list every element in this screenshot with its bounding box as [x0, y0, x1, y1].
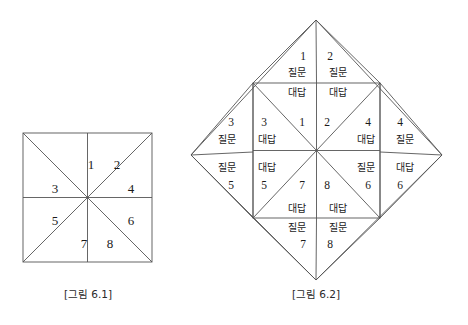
- fig2-word-label: 대답: [258, 163, 276, 173]
- fig2-word-label: 대답: [258, 135, 276, 145]
- fig2-word-label: 질문: [396, 135, 414, 145]
- fig1-sector-label: 4: [128, 182, 135, 195]
- fig2-number-label: 4: [365, 117, 371, 129]
- fig2-word-label: 질문: [329, 68, 347, 78]
- fig2-number-label: 4: [397, 117, 403, 129]
- fig2-number-label: 7: [300, 239, 306, 251]
- fig2-number-label: 6: [365, 180, 371, 192]
- fig1-sector-label: 8: [107, 237, 114, 250]
- fig2-word-label: 질문: [288, 68, 306, 78]
- fig2-number-label: 5: [228, 180, 234, 192]
- fig2-word-label: 대답: [329, 88, 347, 98]
- fig2-number-label: 3: [261, 117, 267, 129]
- fig1-sector-label: 2: [114, 158, 121, 171]
- fig2-word-label: 대답: [396, 163, 414, 173]
- fig2-word-label: 대답: [357, 135, 375, 145]
- fig2-number-label: 2: [324, 117, 330, 129]
- fig2-number-label: 2: [327, 51, 333, 63]
- fig2-number-label: 3: [228, 117, 234, 129]
- fig1-sector-label: 1: [88, 158, 95, 171]
- fig1-sector-label: 6: [128, 214, 135, 227]
- fig2-word-label: 질문: [218, 135, 236, 145]
- fig2-word-label: 질문: [218, 163, 236, 173]
- fig2-number-label: 1: [300, 51, 306, 63]
- fig2-number-label: 8: [327, 239, 333, 251]
- fig1-sector-label: 7: [81, 237, 88, 250]
- fig2-number-label: 1: [299, 117, 305, 129]
- fig2-word-label: 대답: [288, 204, 306, 214]
- figure-canvas: 1 2 3 4 5 6 7 8 [그림 6.1] 1질문대답2질문대답3질문3대…: [0, 0, 468, 325]
- fig2-word-label: 질문: [288, 223, 306, 233]
- fig2-word-label: 질문: [357, 163, 375, 173]
- fig2-number-label: 5: [261, 180, 267, 192]
- fig1-sector-label: 5: [52, 214, 59, 227]
- fig2-number-label: 7: [299, 180, 305, 192]
- fig2-number-label: 8: [324, 180, 330, 192]
- fig2-word-label: 질문: [329, 223, 347, 233]
- fig2-word-label: 대답: [329, 204, 347, 214]
- fig1-sector-label: 3: [52, 182, 59, 195]
- fig2-word-label: 대답: [288, 88, 306, 98]
- fig2-number-label: 6: [397, 180, 403, 192]
- fig1-caption: [그림 6.1]: [64, 286, 112, 301]
- fig2-caption: [그림 6.2]: [292, 286, 340, 301]
